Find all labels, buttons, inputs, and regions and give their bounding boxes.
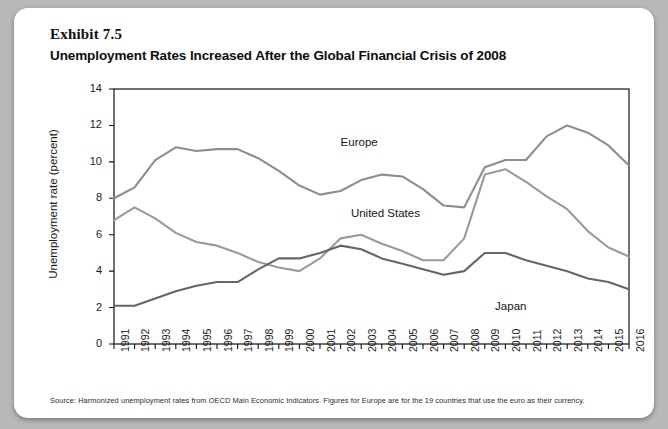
source-note: Source: Harmonized unemployment rates fr… [50, 396, 585, 405]
exhibit-card: Exhibit 7.5 Unemployment Rates Increased… [14, 8, 654, 418]
chart-plot-area: Unemployment rate (percent) 02468101214 … [14, 8, 654, 418]
chart-canvas [14, 8, 654, 418]
